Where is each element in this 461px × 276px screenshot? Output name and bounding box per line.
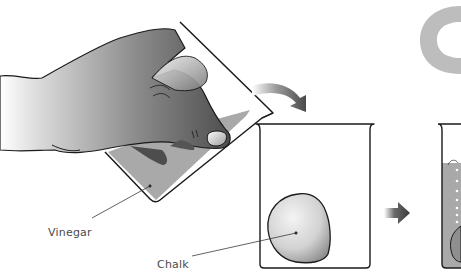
chalk-label: Chalk <box>157 258 189 271</box>
right-arrow-icon <box>384 202 410 224</box>
thumbnail <box>207 131 226 146</box>
chalk-piece <box>268 194 330 263</box>
curved-arrow-icon <box>252 83 306 112</box>
hand-illustration <box>0 29 230 165</box>
vinegar-label: Vinegar <box>48 226 92 239</box>
beaker-reaction <box>438 124 461 268</box>
experiment-diagram: Vinegar Chalk <box>0 0 461 276</box>
step-letter-c <box>420 6 461 74</box>
beaker-with-chalk <box>256 124 374 268</box>
